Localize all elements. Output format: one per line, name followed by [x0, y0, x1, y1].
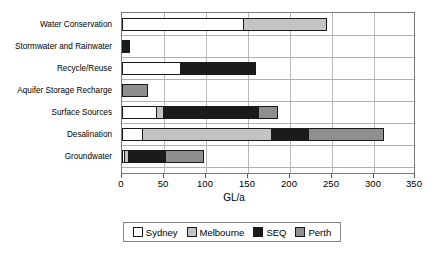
gridline-50: [164, 13, 165, 173]
bar-segment-sydney: [122, 62, 181, 75]
bar-groundwater[interactable]: [122, 150, 203, 163]
row-separator: [122, 79, 414, 80]
x-axis-title: GL/a: [0, 192, 440, 203]
gridline-100: [206, 13, 207, 173]
bar-recycle-reuse[interactable]: [122, 62, 255, 75]
legend: Sydney Melbourne SEQ Perth: [123, 222, 341, 242]
x-tick-label: 350: [399, 178, 429, 189]
bar-segment-sydney: [122, 106, 157, 119]
bar-segment-seq: [122, 40, 130, 53]
category-label: Aquifer Storage Recharge: [17, 86, 112, 95]
x-tick-label: 250: [316, 178, 346, 189]
bar-chart: Water Conservation Stormwater and Rainwa…: [0, 0, 440, 258]
bar-segment-seq: [163, 106, 259, 119]
bar-segment-perth: [308, 128, 384, 141]
x-tick-label: 50: [148, 178, 178, 189]
x-tick-label: 150: [232, 178, 262, 189]
bar-segment-seq: [128, 150, 166, 163]
bar-segment-melbourne: [142, 128, 272, 141]
x-tick-label: 0: [106, 178, 136, 189]
category-label: Stormwater and Rainwater: [15, 42, 112, 51]
x-tick-label: 200: [274, 178, 304, 189]
row-separator: [122, 123, 414, 124]
category-label: Recycle/Reuse: [57, 64, 112, 73]
row-separator: [122, 57, 414, 58]
legend-swatch-icon: [295, 227, 305, 237]
category-label: Desalination: [67, 130, 112, 139]
row-separator: [122, 167, 414, 168]
legend-item-melbourne[interactable]: Melbourne: [187, 227, 245, 238]
bar-water-conservation[interactable]: [122, 18, 326, 31]
plot-area: [121, 12, 415, 174]
bar-segment-sydney: [122, 18, 244, 31]
x-tick-label: 100: [190, 178, 220, 189]
category-label: Water Conservation: [40, 20, 112, 29]
legend-item-seq[interactable]: SEQ: [253, 227, 286, 238]
category-label: Groundwater: [65, 152, 112, 161]
category-axis-labels: Water Conservation Stormwater and Rainwa…: [0, 12, 116, 174]
legend-label: Perth: [308, 227, 331, 238]
x-tick-labels: 0 50 100 150 200 250 300 350: [0, 178, 440, 192]
gridline-300: [374, 13, 375, 173]
category-label: Surface Sources: [51, 108, 112, 117]
x-axis-title-text: GL/a: [223, 192, 245, 203]
x-tick-label: 300: [358, 178, 388, 189]
legend-swatch-icon: [187, 227, 197, 237]
bar-segment-perth: [165, 150, 204, 163]
row-separator: [122, 35, 414, 36]
bar-stormwater-and-rainwater[interactable]: [122, 40, 129, 53]
legend-label: Melbourne: [200, 227, 245, 238]
legend-label: Sydney: [146, 227, 178, 238]
bar-segment-sydney: [122, 128, 143, 141]
bar-segment-perth: [122, 84, 148, 97]
row-separator: [122, 101, 414, 102]
bar-aquifer-storage-recharge[interactable]: [122, 84, 147, 97]
bar-segment-perth: [258, 106, 278, 119]
bar-segment-seq: [271, 128, 309, 141]
gridline-250: [332, 13, 333, 173]
bar-surface-sources[interactable]: [122, 106, 277, 119]
legend-item-sydney[interactable]: Sydney: [133, 227, 178, 238]
legend-item-perth[interactable]: Perth: [295, 227, 331, 238]
legend-label: SEQ: [266, 227, 286, 238]
bar-segment-melbourne: [243, 18, 327, 31]
legend-swatch-icon: [253, 227, 263, 237]
row-separator: [122, 145, 414, 146]
gridline-200: [290, 13, 291, 173]
gridline-150: [248, 13, 249, 173]
legend-swatch-icon: [133, 227, 143, 237]
bar-desalination[interactable]: [122, 128, 383, 141]
bar-segment-seq: [180, 62, 256, 75]
